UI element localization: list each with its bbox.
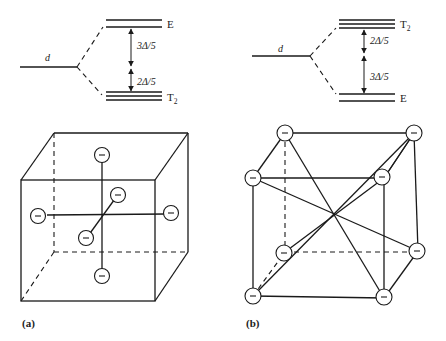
- ligand-corner: [276, 245, 292, 261]
- t2-level-label: T2: [167, 91, 178, 106]
- ligand-corner: [376, 289, 392, 305]
- upper-gap-label: 2Δ/5: [370, 35, 389, 46]
- x-axis-bond: [47, 214, 166, 215]
- diagonal-bond: [253, 133, 414, 296]
- ligand-right: [164, 206, 179, 221]
- crystal-field-figure: d E T2 3Δ/5 2Δ/5 d T2: [0, 0, 446, 341]
- ligand-left: [31, 209, 46, 224]
- split-dash-lower: [77, 67, 102, 95]
- ligand-corner: [277, 125, 293, 141]
- upper-gap-label: 3Δ/5: [136, 40, 156, 51]
- ligand-corner: [245, 288, 261, 304]
- e-level-label: E: [400, 92, 407, 104]
- ligand-corner: [374, 169, 390, 185]
- ligand-top: [95, 148, 110, 163]
- split-dash-lower: [310, 56, 336, 94]
- split-dash-upper: [310, 28, 336, 56]
- d-level-label: d: [278, 43, 284, 54]
- e-level: [106, 20, 162, 27]
- ligand-bottom: [95, 269, 110, 284]
- panel-a-octahedral-cube: [21, 133, 188, 301]
- panel-a-level-diagram: d E T2 3Δ/5 2Δ/5: [20, 18, 178, 106]
- ligand-corner: [245, 170, 261, 186]
- e-level: [339, 94, 395, 101]
- panel-b-level-diagram: d T2 E 2Δ/5 3Δ/5: [252, 18, 411, 104]
- t2-level: [106, 92, 162, 100]
- ligand-corner: [406, 125, 422, 141]
- lower-gap-label: 2Δ/5: [137, 76, 156, 87]
- panel-b-tetrahedral-cube: [245, 125, 425, 305]
- diagonal-bond: [285, 178, 384, 252]
- e-level-label: E: [167, 18, 174, 30]
- t2-level: [339, 20, 395, 28]
- lower-gap-label: 3Δ/5: [369, 71, 389, 82]
- panel-b-label: (b): [246, 317, 260, 330]
- split-dash-upper: [77, 27, 103, 67]
- ligand-front: [79, 231, 94, 246]
- t2-level-label: T2: [400, 18, 411, 33]
- panel-a-label: (a): [22, 317, 35, 330]
- ligand-back: [111, 188, 126, 203]
- d-level-label: d: [45, 52, 51, 63]
- ligand-corner: [409, 243, 425, 259]
